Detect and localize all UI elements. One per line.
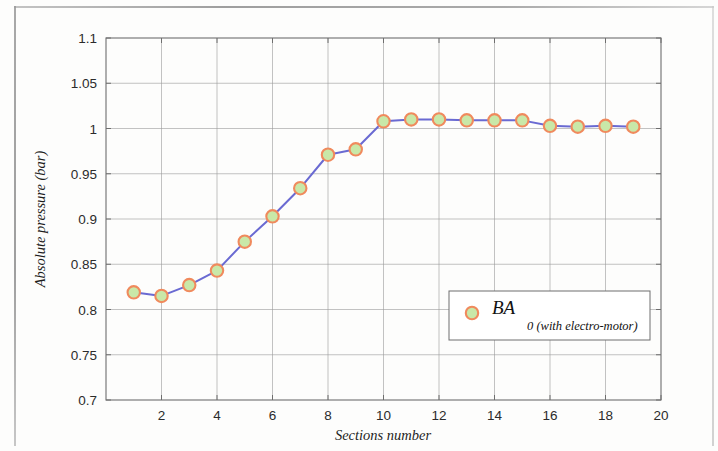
x-tick-label: 2	[158, 408, 166, 423]
y-tick-label: 0.95	[71, 167, 97, 182]
data-point-marker	[627, 120, 639, 132]
data-point-marker	[322, 149, 334, 161]
legend-label-main: BA	[492, 297, 516, 318]
data-point-marker	[572, 120, 584, 132]
x-tick-label: 8	[324, 408, 332, 423]
scanned-page: 2468101214161820 0.70.750.80.850.90.9511…	[0, 0, 718, 451]
data-point-marker	[405, 113, 417, 125]
x-tick-label: 18	[598, 408, 613, 423]
data-point-marker	[128, 286, 140, 298]
y-axis-title: Absolute pressure (bar)	[32, 151, 49, 289]
data-point-marker	[155, 290, 167, 302]
x-tick-label: 10	[376, 408, 391, 423]
data-point-marker	[544, 120, 556, 132]
y-tick-label: 1.1	[78, 31, 97, 46]
data-point-marker	[211, 264, 223, 276]
y-tick-label: 0.7	[78, 393, 97, 408]
x-tick-label: 12	[431, 408, 446, 423]
y-tick-label: 0.9	[78, 212, 97, 227]
x-tick-label: 20	[653, 408, 668, 423]
legend-label-subscript: 0 (with electro-motor)	[527, 319, 638, 333]
y-tick-label: 0.8	[78, 303, 97, 318]
data-point-marker	[294, 182, 306, 194]
y-tick-label: 0.85	[71, 257, 97, 272]
data-point-marker	[350, 143, 362, 155]
data-point-marker	[516, 114, 528, 126]
y-tick-label: 1	[89, 122, 97, 137]
x-tick-label: 4	[213, 408, 221, 423]
y-tick-label: 1.05	[71, 76, 97, 91]
pressure-line-chart: 2468101214161820 0.70.750.80.850.90.9511…	[0, 0, 718, 451]
data-point-marker	[488, 114, 500, 126]
data-point-marker	[377, 115, 389, 127]
grid-lines	[106, 38, 661, 400]
data-point-marker	[461, 114, 473, 126]
x-axis-title: Sections number	[335, 427, 432, 443]
y-tick-labels: 0.70.750.80.850.90.9511.051.1	[71, 31, 97, 408]
data-point-marker	[183, 279, 195, 291]
data-point-marker	[266, 210, 278, 222]
y-tick-label: 0.75	[71, 348, 97, 363]
data-point-marker	[239, 235, 251, 247]
legend-marker-icon	[466, 307, 478, 319]
x-tick-label: 16	[542, 408, 557, 423]
chart-legend[interactable]: BA 0 (with electro-motor)	[449, 291, 650, 340]
x-tick-label: 14	[487, 408, 503, 423]
x-tick-label: 6	[269, 408, 277, 423]
chart-canvas: 2468101214161820 0.70.750.80.850.90.9511…	[0, 0, 718, 451]
x-tick-labels: 2468101214161820	[158, 408, 669, 423]
data-point-marker	[433, 113, 445, 125]
data-point-marker	[599, 120, 611, 132]
